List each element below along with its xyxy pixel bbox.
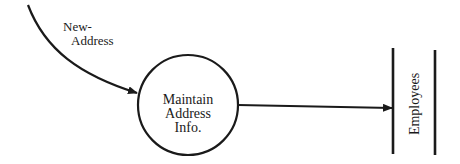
process-label-line2: Address (165, 106, 211, 121)
process-label-line1: Maintain (163, 92, 214, 107)
flow-label-line1: New- (63, 19, 92, 34)
output-flow-arrow (238, 105, 392, 108)
data-flow-diagram: New- Address Maintain Address Info. Empl… (0, 0, 460, 164)
data-store-label: Employees (407, 73, 422, 135)
flow-label-line2: Address (71, 33, 114, 48)
process-label-line3: Info. (175, 120, 202, 135)
